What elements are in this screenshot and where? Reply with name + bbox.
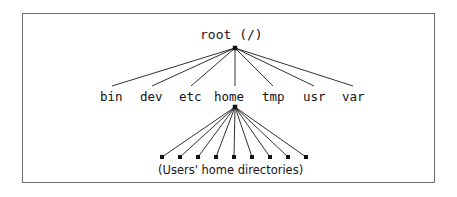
directory-label-usr: usr [303, 89, 326, 104]
user-home-node-9 [304, 155, 308, 159]
filesystem-hierarchy-diagram: root (/) bindevetchometmpusrvar (Users' … [0, 0, 457, 197]
edge-root-to-dev [152, 48, 235, 86]
user-home-node-3 [196, 155, 200, 159]
home-directories-caption: (Users' home directories) [158, 163, 303, 177]
directory-label-etc: etc [179, 89, 202, 104]
user-home-node-2 [178, 155, 182, 159]
user-home-node-1 [160, 155, 164, 159]
edge-home-to-user-4 [216, 107, 235, 157]
home-edge-group [162, 107, 306, 157]
root-node-label: root (/) [200, 27, 263, 42]
directory-label-var: var [342, 89, 365, 104]
user-home-node-6 [250, 155, 254, 159]
edge-home-to-user-9 [235, 107, 306, 157]
edge-home-to-user-7 [235, 107, 270, 157]
root-junction-marker [233, 46, 238, 51]
directory-label-dev: dev [140, 89, 163, 104]
user-home-node-8 [286, 155, 290, 159]
user-home-node-4 [214, 155, 218, 159]
user-home-node-7 [268, 155, 272, 159]
edge-home-to-user-8 [235, 107, 288, 157]
edge-home-to-user-2 [180, 107, 235, 157]
edge-root-to-etc [191, 48, 235, 86]
edge-home-to-user-5 [234, 107, 235, 157]
edge-root-to-var [235, 48, 353, 86]
edge-root-to-bin [112, 48, 235, 86]
edge-home-to-user-1 [162, 107, 235, 157]
root-edge-group [112, 48, 353, 86]
directory-label-home: home [214, 89, 244, 104]
directory-label-tmp: tmp [262, 89, 285, 104]
directory-label-bin: bin [100, 89, 123, 104]
edge-home-to-user-3 [198, 107, 235, 157]
home-junction-marker [233, 105, 238, 110]
user-home-node-5 [232, 155, 236, 159]
edge-root-to-usr [235, 48, 314, 86]
